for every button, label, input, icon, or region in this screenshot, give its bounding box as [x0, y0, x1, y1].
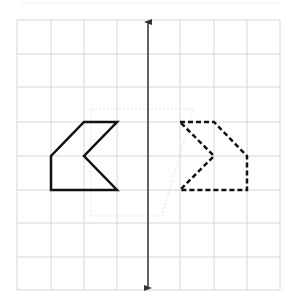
- ghost-bleed-through-marks: [91, 109, 193, 216]
- reflection-diagram: [0, 0, 295, 308]
